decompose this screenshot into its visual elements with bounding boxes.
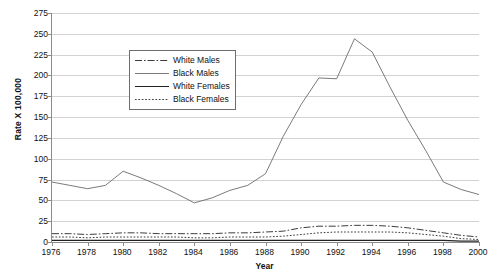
x-tick-label: 1990 [280,247,320,257]
legend-line-swatch [134,55,170,66]
x-tick-label: 2000 [458,247,498,257]
x-tick-mark [230,242,231,246]
y-tick-label: 200 [18,70,48,80]
y-tick-label: 250 [18,29,48,39]
x-axis-tick-marks [52,242,479,246]
y-axis-tick-labels: 2752502252001751501251007550250 [18,8,48,244]
chart-container: Rate X 100,000 2752502252001751501251007… [0,0,502,277]
y-tick-label: 100 [18,154,48,164]
y-tick-label: 25 [18,216,48,226]
x-tick-label: 1978 [67,247,107,257]
legend-line-swatch [134,94,170,105]
y-tick-label: 75 [18,175,48,185]
x-tick-label: 1980 [102,247,142,257]
x-axis-tick-labels: 1976197819801982198419861988199019921994… [51,247,478,259]
x-tick-label: 1992 [316,247,356,257]
series-lines [52,13,479,242]
x-tick-mark [337,242,338,246]
legend-item-label: White Males [173,55,220,66]
x-tick-mark [123,242,124,246]
y-tick-label: 50 [18,195,48,205]
x-tick-mark [52,242,53,246]
y-tick-label: 125 [18,133,48,143]
y-tick-label: 150 [18,112,48,122]
y-tick-label: 225 [18,50,48,60]
x-tick-label: 1996 [387,247,427,257]
x-tick-label: 1982 [138,247,178,257]
x-tick-mark [443,242,444,246]
x-tick-label: 1994 [351,247,391,257]
plot-area: White MalesBlack MalesWhite FemalesBlack… [51,13,479,243]
x-tick-label: 1988 [245,247,285,257]
legend-line-swatch [134,68,170,79]
legend-item-label: Black Females [173,94,229,105]
series-line-black-males [52,39,479,203]
x-tick-mark [479,242,480,246]
x-tick-mark [159,242,160,246]
legend-line-swatch [134,81,170,92]
legend-item-label: Black Males [173,68,219,79]
y-tick-label: 175 [18,91,48,101]
legend-item-black-females[interactable]: Black Females [134,93,230,106]
x-tick-mark [408,242,409,246]
legend: White MalesBlack MalesWhite FemalesBlack… [129,50,236,110]
x-axis-title: Year [51,261,478,271]
legend-item-black-males[interactable]: Black Males [134,67,230,80]
x-tick-label: 1986 [209,247,249,257]
y-tick-label: 275 [18,8,48,18]
x-tick-label: 1976 [31,247,71,257]
x-tick-mark [88,242,89,246]
legend-item-label: White Females [173,81,230,92]
x-tick-mark [266,242,267,246]
x-tick-label: 1998 [422,247,462,257]
y-tick-label: 0 [18,237,48,247]
x-tick-mark [194,242,195,246]
legend-item-white-males[interactable]: White Males [134,54,230,67]
legend-item-white-females[interactable]: White Females [134,80,230,93]
series-line-white-males [52,225,479,237]
x-tick-label: 1984 [173,247,213,257]
series-line-white-females [52,240,479,241]
x-tick-mark [372,242,373,246]
x-tick-mark [301,242,302,246]
